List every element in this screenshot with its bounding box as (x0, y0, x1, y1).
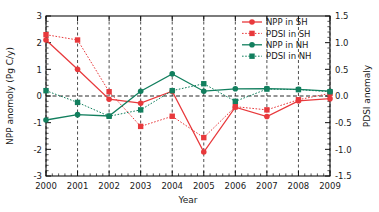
y2tick-label-1: 1.0 (335, 38, 349, 48)
y2tick-label-2: 0.5 (335, 65, 349, 75)
legend-swatch-marker-1 (249, 31, 254, 36)
xtick-label-2006: 2006 (225, 181, 247, 191)
xtick-label-2002: 2002 (98, 181, 120, 191)
datapoint-2004 (170, 88, 175, 93)
series-pdsi-in-nh (43, 81, 332, 119)
legend-swatch-marker-3 (249, 54, 254, 59)
xtick-label-2001: 2001 (67, 181, 89, 191)
ytick-label-5: -2 (34, 145, 42, 155)
datapoint-2003 (138, 88, 144, 94)
legend-marker (249, 19, 255, 25)
ytick-label-1: 2 (37, 38, 42, 48)
xtick-label-2009: 2009 (319, 181, 341, 191)
y2tick-label-3: 0.0 (335, 91, 349, 101)
datapoint-2006 (233, 86, 239, 92)
datapoint-2002 (106, 89, 111, 94)
datapoint-2006 (233, 99, 238, 104)
x-axis-title: Year (177, 195, 197, 205)
datapoint-2001 (75, 100, 80, 105)
datapoint-2008 (296, 87, 301, 92)
datapoint-2007 (264, 107, 269, 112)
datapoint-2009 (327, 89, 332, 94)
legend-marker (249, 42, 255, 48)
series-line (46, 74, 330, 120)
datapoint-2005 (201, 135, 206, 140)
legend-label-1: PDSI in SH (266, 29, 311, 39)
anomaly-line-chart: 3210-1-2-31.51.00.50.0-0.5-1.0-1.5200020… (0, 0, 379, 212)
datapoint-2008 (296, 97, 301, 102)
chart-container: 3210-1-2-31.51.00.50.0-0.5-1.0-1.5200020… (0, 0, 379, 212)
datapoint-2003 (138, 124, 143, 129)
legend-swatch-marker-0 (249, 19, 255, 25)
y2tick-label-6: -1.5 (335, 171, 352, 181)
datapoint-2003 (138, 107, 143, 112)
datapoint-2000 (43, 117, 49, 123)
datapoint-2000 (43, 32, 48, 37)
datapoint-2005 (201, 149, 207, 155)
datapoint-2000 (43, 88, 48, 93)
ytick-label-6: -3 (34, 171, 42, 181)
datapoint-2003 (138, 100, 144, 106)
y2tick-label-5: -1.0 (335, 145, 352, 155)
series-npp-in-nh (43, 71, 333, 123)
ytick-label-4: -1 (34, 118, 42, 128)
xtick-label-2003: 2003 (130, 181, 152, 191)
xtick-label-2004: 2004 (161, 181, 183, 191)
legend-label-2: NPP in NH (266, 40, 309, 50)
xtick-label-2008: 2008 (288, 181, 310, 191)
xtick-label-2007: 2007 (256, 181, 278, 191)
ytick-label-3: 0 (37, 91, 42, 101)
ytick-label-0: 3 (37, 11, 42, 21)
datapoint-2007 (264, 114, 270, 120)
datapoint-2009 (327, 96, 333, 102)
datapoint-2004 (169, 71, 175, 77)
xtick-label-2000: 2000 (35, 181, 57, 191)
datapoint-2002 (106, 114, 111, 119)
datapoint-2000 (43, 37, 49, 43)
ytick-label-2: 1 (37, 65, 42, 75)
legend-marker (249, 54, 254, 59)
y2tick-label-4: -0.5 (335, 118, 352, 128)
datapoint-2005 (201, 88, 207, 94)
datapoint-2001 (75, 37, 80, 42)
datapoint-2007 (264, 86, 269, 91)
legend-label-3: PDSI in NH (266, 51, 311, 61)
legend-label-0: NPP in SH (266, 17, 308, 27)
y-axis-title: NPP anomoly (Pg C/y) (5, 47, 15, 145)
datapoint-2004 (170, 114, 175, 119)
y2tick-label-0: 1.5 (335, 11, 349, 21)
datapoint-2001 (75, 112, 81, 118)
legend-swatch-marker-2 (249, 42, 255, 48)
datapoint-2006 (233, 104, 238, 109)
datapoint-2005 (201, 81, 206, 86)
datapoint-2002 (106, 96, 112, 102)
xtick-label-2005: 2005 (193, 181, 215, 191)
y2-axis-title: PDSI anomaly (362, 64, 372, 127)
legend-marker (249, 31, 254, 36)
datapoint-2001 (75, 67, 81, 73)
